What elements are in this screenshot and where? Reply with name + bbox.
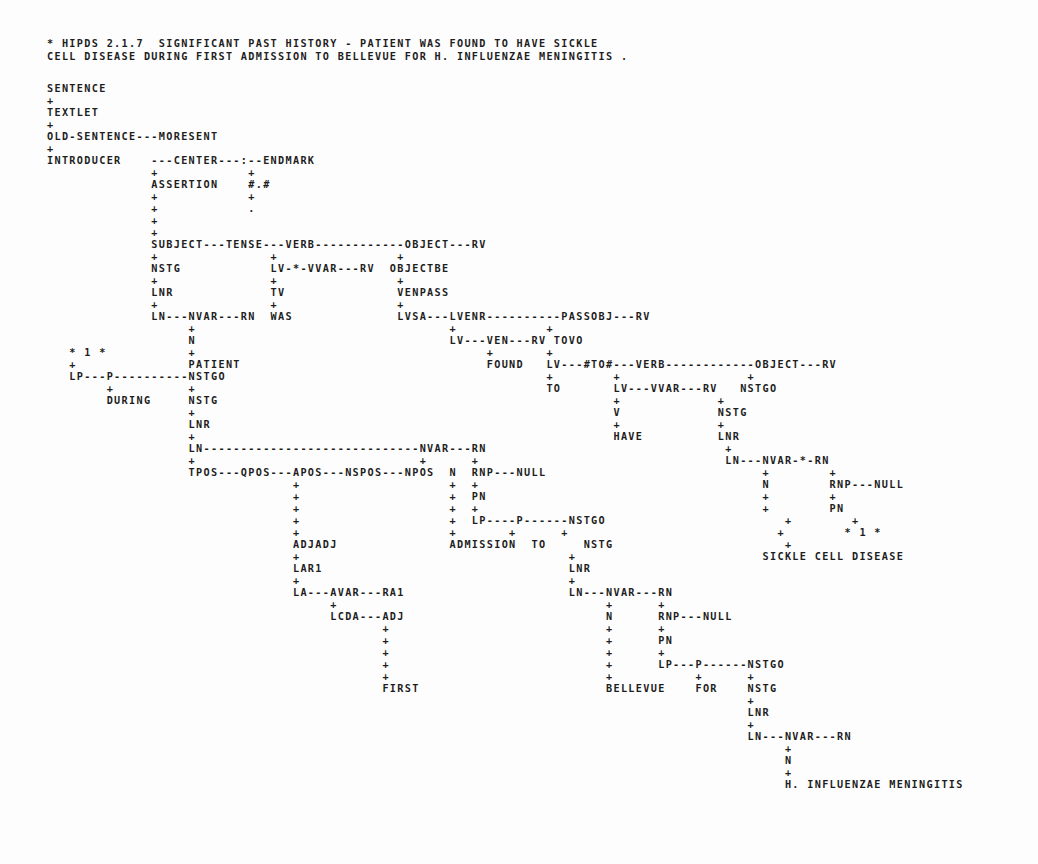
tree-line: + +	[47, 575, 576, 586]
tree-line: + + PN	[47, 635, 673, 646]
tree-line: +	[47, 95, 54, 106]
tree-line: DURING NSTG + +	[47, 395, 725, 406]
tree-line: + + +	[47, 275, 405, 286]
tree-line: + + +	[47, 251, 405, 262]
tree-line: + + + + + * 1 *	[47, 527, 882, 538]
tree-line: + + +	[47, 323, 554, 334]
tree-line: +	[47, 215, 159, 226]
tree-line: * 1 * + + +	[47, 347, 554, 358]
printout-page: * HIPDS 2.1.7 SIGNIFICANT PAST HISTORY -…	[0, 0, 1038, 864]
tree-line: + + +	[47, 599, 666, 610]
tree-line: + .	[47, 203, 256, 214]
tree-line: + HAVE LNR	[47, 431, 740, 442]
tree-line: N LV---VEN---RV TOVO	[47, 335, 584, 346]
tree-line: + + + +	[47, 671, 755, 682]
tree-line: + + TO LV---VVAR---RV NSTGO	[47, 383, 777, 394]
tree-line: +	[47, 119, 54, 130]
tree-line: + + +	[47, 623, 666, 634]
tree-line: + + + LN---NVAR-*-RN	[47, 455, 830, 466]
tree-line: + + + N RNP---NULL	[47, 479, 904, 490]
tree-line: LCDA---ADJ N RNP---NULL	[47, 611, 733, 622]
tree-line: + + PN + +	[47, 491, 837, 502]
tree-line: SENTENCE	[47, 83, 107, 94]
tree-line: TPOS---QPOS---APOS---NSPOS---NPOS N RNP-…	[47, 467, 837, 478]
tree-line: LN---NVAR---RN WAS LVSA---LVENR---------…	[47, 311, 651, 322]
tree-line: +	[47, 767, 792, 778]
tree-line: ADJADJ ADMISSION TO NSTG +	[47, 539, 792, 550]
tree-line: LNR + +	[47, 419, 725, 430]
tree-line: + +	[47, 167, 256, 178]
tree-line: + + + + PN	[47, 503, 845, 514]
header-line: CELL DISEASE DURING FIRST ADMISSION TO B…	[47, 51, 628, 63]
tree-line: + V NSTG	[47, 407, 748, 418]
tree-line: FIRST BELLEVUE FOR NSTG	[47, 683, 777, 694]
tree-line: + +	[47, 191, 256, 202]
tree-line: +	[47, 719, 755, 730]
tree-line: LA---AVAR---RA1 LN---NVAR---RN	[47, 587, 673, 598]
tree-line: TEXTLET	[47, 107, 99, 118]
tree-line: +	[47, 695, 755, 706]
tree-line: + + +	[47, 647, 666, 658]
tree-line: +	[47, 227, 159, 238]
tree-line: LNR TV VENPASS	[47, 287, 449, 298]
tree-line: + + LP---P------NSTGO	[47, 659, 785, 670]
tree-line: OLD-SENTENCE---MORESENT	[47, 131, 218, 142]
tree-line: + + +	[47, 299, 405, 310]
parse-tree-grid: * HIPDS 2.1.7 SIGNIFICANT PAST HISTORY -…	[0, 0, 1038, 864]
tree-line: LP---P----------NSTGO + + +	[47, 371, 755, 382]
tree-line: +	[47, 143, 54, 154]
tree-line: LAR1 LNR	[47, 563, 591, 574]
tree-line: INTRODUCER ---CENTER---:--ENDMARK	[47, 155, 315, 166]
tree-line: LNR	[47, 707, 770, 718]
tree-line: + + LP----P------NSTGO + +	[47, 515, 859, 526]
tree-line: NSTG LV-*-VVAR---RV OBJECTBE	[47, 263, 449, 274]
tree-line: LN---NVAR---RN	[47, 731, 852, 742]
tree-line: LN-----------------------------NVAR---RN…	[47, 443, 733, 454]
tree-line: H. INFLUENZAE MENINGITIS	[47, 779, 964, 790]
tree-line: SUBJECT---TENSE---VERB------------OBJECT…	[47, 239, 487, 250]
tree-line: N	[47, 755, 792, 766]
tree-line: + + SICKLE CELL DISEASE	[47, 551, 904, 562]
tree-line: +	[47, 743, 792, 754]
tree-line: + PATIENT FOUND LV---#TO#---VERB--------…	[47, 359, 837, 370]
header-line: * HIPDS 2.1.7 SIGNIFICANT PAST HISTORY -…	[47, 38, 599, 50]
tree-line: ASSERTION #.#	[47, 179, 271, 190]
